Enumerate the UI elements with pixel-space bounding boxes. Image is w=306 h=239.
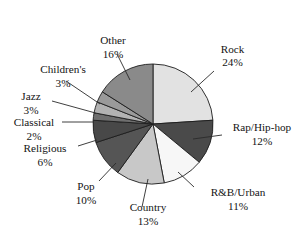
- pie-slice-rock: [153, 64, 213, 124]
- slice-label-pop: Pop: [77, 180, 95, 192]
- slice-label-rock: Rock: [221, 43, 245, 55]
- slice-value-rnb-urban: 11%: [228, 200, 248, 212]
- leader-line-pop: [99, 163, 116, 181]
- pie-slice-group: [93, 64, 213, 184]
- slice-label-classical: Classical: [14, 116, 54, 128]
- slice-value-jazz: 3%: [24, 104, 39, 116]
- leader-line-religious: [78, 140, 97, 146]
- slice-value-other: 16%: [103, 48, 124, 60]
- slice-label-rap-hip-hop: Rap/Hip-hop: [233, 121, 292, 133]
- pie-chart-svg: Rock 24% Rap/Hip-hop 12% R&B/Urban 11% C…: [0, 0, 306, 239]
- pie-chart-figure: Rock 24% Rap/Hip-hop 12% R&B/Urban 11% C…: [0, 0, 306, 239]
- slice-value-childrens: 3%: [56, 77, 71, 89]
- slice-label-religious: Religious: [24, 142, 67, 154]
- slice-value-religious: 6%: [38, 156, 53, 168]
- slice-label-other: Other: [100, 34, 126, 46]
- slice-label-childrens: Children's: [40, 63, 86, 75]
- slice-label-country: Country: [130, 201, 167, 213]
- slice-value-rock: 24%: [222, 56, 243, 68]
- slice-value-rap-hip-hop: 12%: [252, 135, 273, 147]
- slice-value-country: 13%: [138, 215, 159, 227]
- slice-value-classical: 2%: [27, 130, 42, 142]
- slice-label-jazz: Jazz: [21, 90, 40, 102]
- slice-label-rnb-urban: R&B/Urban: [211, 186, 266, 198]
- slice-value-pop: 10%: [76, 194, 97, 206]
- leader-line-jazz: [52, 101, 96, 113]
- leader-line-childrens: [66, 81, 100, 104]
